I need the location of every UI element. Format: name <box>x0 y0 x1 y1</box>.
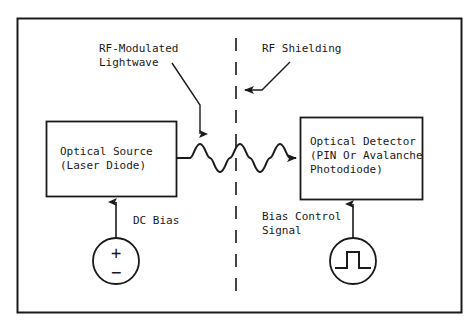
rf-shielding-leader <box>245 62 290 90</box>
rf-modulated-lightwave-label-line-2: Lightwave <box>99 56 159 69</box>
optical-detector-label-line-2: (PIN Or Avalanche <box>310 149 423 162</box>
square-pulse-icon <box>335 252 371 268</box>
optical-source-label-line-1: Optical Source <box>60 145 153 158</box>
lightwave-sine-path <box>190 144 290 172</box>
dc-source-minus-sign: − <box>111 262 121 282</box>
rf-modulated-lightwave-label-line-1: RF-Modulated <box>99 42 178 55</box>
dc-source-plus-sign: + <box>111 243 121 263</box>
bias-control-label-line-1: Bias Control <box>262 210 341 223</box>
optical-detector-label-line-3: Photodiode) <box>310 163 383 176</box>
bias-control-label-line-2: Signal <box>262 224 302 237</box>
optical-link-diagram: Optical Source (Laser Diode) Optical Det… <box>0 0 474 323</box>
diagram-canvas: Optical Source (Laser Diode) Optical Det… <box>0 0 474 323</box>
rf-shielding-label: RF Shielding <box>262 42 341 55</box>
dc-bias-label: DC Bias <box>133 214 179 227</box>
optical-detector-label-line-1: Optical Detector <box>310 135 416 148</box>
optical-source-label-line-2: (Laser Diode) <box>60 159 146 172</box>
pulse-source-symbol <box>330 238 376 284</box>
